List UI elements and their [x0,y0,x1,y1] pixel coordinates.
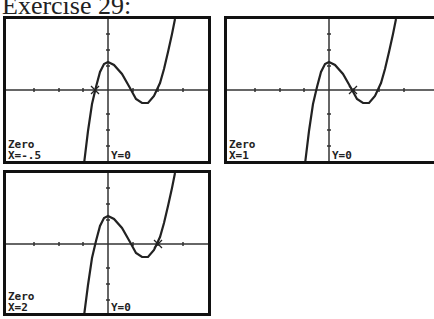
x-value: X=-.5 [8,150,41,161]
x-value: X=2 [8,302,28,313]
graph-3 [6,173,211,316]
graph-2 [227,19,434,164]
calculator-screen-1: Zero X=-.5 Y=0 [3,16,211,164]
x-value: X=1 [229,150,249,161]
y-value: Y=0 [332,150,352,161]
y-value: Y=0 [111,302,131,313]
y-value: Y=0 [111,150,131,161]
graph-1 [6,19,211,164]
calculator-screen-2: Zero X=1 Y=0 [224,16,434,164]
calculator-screen-3: Zero X=2 Y=0 [3,170,211,316]
